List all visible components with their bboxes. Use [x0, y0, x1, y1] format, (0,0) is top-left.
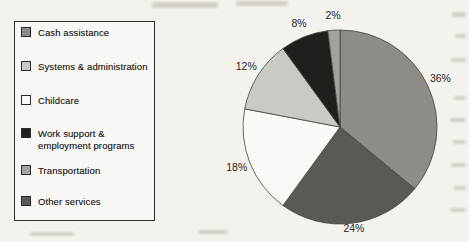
pie-data-label-systems-administration: 12%	[236, 60, 257, 72]
scan-artifact	[453, 140, 466, 144]
pie-data-label-other-services: 24%	[343, 222, 364, 234]
pie-data-label-cash-assistance: 36%	[430, 72, 451, 84]
scan-artifact	[30, 232, 74, 236]
scan-artifact	[454, 186, 466, 190]
pie-data-label-childcare: 18%	[226, 161, 247, 173]
scan-artifact	[198, 230, 228, 234]
pie-chart: 36%24%18%12%8%2%	[0, 0, 469, 242]
pie-data-label-transportation: 2%	[325, 9, 340, 21]
scan-artifact	[450, 118, 466, 122]
scan-artifact	[450, 208, 466, 212]
scan-artifact	[236, 1, 288, 6]
scan-artifact	[451, 58, 466, 62]
scan-artifact	[455, 34, 466, 38]
scan-artifact	[451, 163, 466, 167]
scan-artifact	[452, 12, 466, 17]
scan-artifact	[454, 96, 466, 100]
pie-chart-figure: Cash assistanceSystems & administrationC…	[0, 0, 469, 242]
pie-data-label-work-support-employment-programs: 8%	[292, 17, 307, 29]
scan-artifact	[152, 2, 218, 8]
